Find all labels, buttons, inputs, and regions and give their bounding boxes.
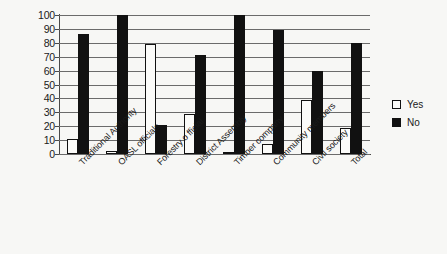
x-axis-category-label: Civil society xyxy=(310,127,350,167)
legend-swatch-no xyxy=(392,118,401,127)
legend-label: No xyxy=(407,117,420,128)
x-axis-category-label: Community members xyxy=(271,101,337,167)
legend-swatch-yes xyxy=(392,100,401,109)
legend-item: Yes xyxy=(392,95,423,113)
legend-label: Yes xyxy=(407,99,423,110)
legend-item: No xyxy=(392,113,423,131)
x-axis-labels: Traditional AuthorityOASL officialsFores… xyxy=(0,0,447,254)
x-axis-category-label: Total xyxy=(349,147,369,167)
chart-legend: YesNo xyxy=(392,95,423,131)
bar-chart: 1009080706050403020100 Traditional Autho… xyxy=(0,0,447,254)
